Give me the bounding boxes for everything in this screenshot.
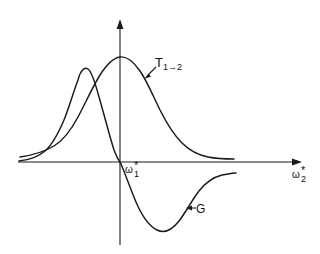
gain-curve-label: G — [196, 203, 205, 215]
omega-1-subscript: 1 — [134, 170, 139, 179]
omega-2-base: ω — [292, 169, 300, 180]
physics-lineshape-figure — [0, 0, 320, 254]
transmission-label-base: T — [155, 55, 163, 70]
y-axis-arrow-icon — [117, 19, 124, 29]
transmission-curve-label: T1→2 — [155, 56, 182, 69]
omega-1-symbol: ω * 1 — [125, 165, 133, 175]
omega-2-symbol: ω * 2 — [292, 170, 300, 180]
x-axis-label: ω * 2 — [292, 170, 300, 180]
transmission-label-subscript: 1→2 — [163, 62, 182, 72]
omega-2-subscript: 2 — [301, 175, 306, 184]
omega-1-base: ω — [125, 164, 133, 175]
origin-tick-label: ω * 1 — [125, 165, 133, 175]
axes-group — [18, 19, 302, 245]
